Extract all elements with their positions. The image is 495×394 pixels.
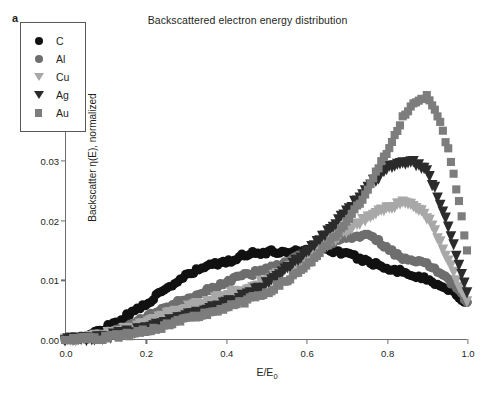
- legend-marker-shape: [35, 37, 43, 45]
- x-tick-mark: [65, 339, 66, 344]
- legend-marker-square-icon: [32, 107, 45, 120]
- x-tick-label: 0.4: [220, 348, 233, 359]
- x-tick-mark: [307, 339, 308, 344]
- x-tick-mark: [467, 339, 468, 344]
- legend-label: Au: [56, 108, 69, 119]
- y-tick-label: 0.00: [41, 335, 60, 346]
- legend-label: Ag: [56, 90, 69, 101]
- legend-marker-triangle-down-icon: [32, 71, 45, 84]
- y-tick-mark: [61, 220, 66, 221]
- legend-item-c[interactable]: C: [32, 32, 69, 50]
- x-tick-mark: [226, 339, 227, 344]
- x-axis-label-base: E/E: [256, 366, 273, 378]
- x-axis-label: E/E0: [66, 366, 468, 381]
- legend: CAlCuAgAu: [20, 22, 86, 132]
- legend-marker-shape: [35, 55, 43, 63]
- legend-marker-circle-icon: [32, 35, 45, 48]
- legend-item-cu[interactable]: Cu: [32, 68, 69, 86]
- legend-item-au[interactable]: Au: [32, 104, 69, 122]
- x-tick-label: 0.2: [140, 348, 153, 359]
- y-tick-label: 0.03: [41, 156, 60, 167]
- legend-label: Al: [56, 54, 65, 65]
- figure-panel: a Backscattered electron energy distribu…: [0, 0, 495, 394]
- y-axis-label: Backscatter η(E), normalized: [87, 48, 98, 268]
- x-axis-label-subscript: 0: [273, 372, 277, 381]
- legend-marker-triangle-down-icon: [32, 89, 45, 102]
- plot-area: Backscatter η(E), normalized 0.000.010.0…: [65, 42, 467, 340]
- legend-marker-shape: [35, 109, 43, 117]
- x-tick-label: 0.8: [381, 348, 394, 359]
- x-tick-label: 0.6: [301, 348, 314, 359]
- legend-label: C: [56, 36, 64, 47]
- legend-item-ag[interactable]: Ag: [32, 86, 69, 104]
- y-tick-mark: [61, 161, 66, 162]
- x-tick-label: 1.0: [461, 348, 474, 359]
- legend-marker-circle-icon: [32, 53, 45, 66]
- x-tick-label: 0.0: [59, 348, 72, 359]
- y-tick-label: 0.01: [41, 275, 60, 286]
- x-tick-mark: [146, 339, 147, 344]
- legend-marker-shape: [34, 91, 44, 99]
- legend-item-al[interactable]: Al: [32, 50, 69, 68]
- y-tick-mark: [61, 280, 66, 281]
- legend-label: Cu: [56, 72, 69, 83]
- y-tick-label: 0.02: [41, 215, 60, 226]
- legend-marker-shape: [34, 73, 44, 81]
- x-tick-mark: [387, 339, 388, 344]
